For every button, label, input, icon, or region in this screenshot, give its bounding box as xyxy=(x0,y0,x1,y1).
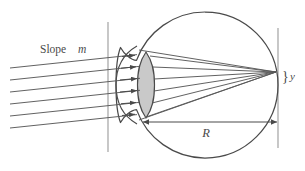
slope-label: Slope xyxy=(40,43,66,56)
slope-symbol-label: m xyxy=(78,43,86,55)
height-brace-glyph: } xyxy=(282,69,289,84)
height-label: y xyxy=(289,70,295,82)
eye-ray-diagram: Slope m R } y xyxy=(0,0,305,171)
radius-label: R xyxy=(201,126,210,140)
eye-optics-figure: Slope m R } y xyxy=(0,0,305,171)
